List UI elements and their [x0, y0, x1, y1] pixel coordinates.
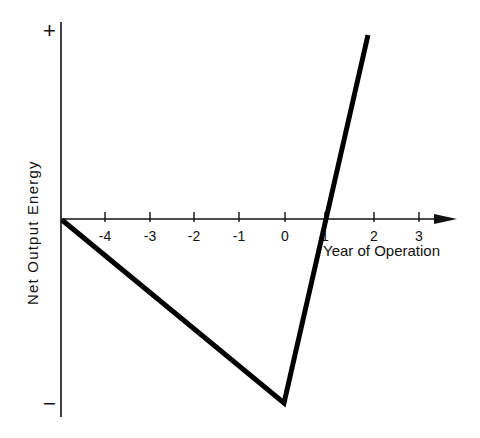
x-axis-title: Year of Operation — [323, 242, 440, 259]
x-tick-label: -3 — [144, 228, 157, 244]
x-axis-arrow-icon — [434, 214, 457, 224]
chart-svg: -4-3-2-10123 + − Net Output Energy Year … — [0, 0, 480, 438]
y-plus-label: + — [43, 18, 56, 43]
x-tick-label: -2 — [188, 228, 201, 244]
y-axis-title: Net Output Energy — [24, 160, 41, 305]
x-tick-label: 0 — [281, 228, 289, 244]
x-tick-label: -1 — [233, 228, 246, 244]
y-minus-label: − — [43, 391, 56, 416]
chart: -4-3-2-10123 + − Net Output Energy Year … — [0, 0, 480, 438]
x-ticks: -4-3-2-10123 — [99, 212, 423, 244]
x-tick-label: -4 — [99, 228, 112, 244]
